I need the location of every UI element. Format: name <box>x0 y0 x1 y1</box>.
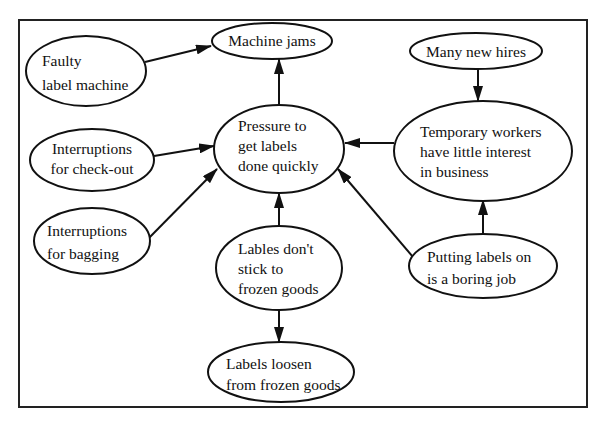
arrow-line <box>145 169 217 242</box>
node-ellipse <box>26 36 146 106</box>
node-checkout: Interruptionsfor check-out <box>30 129 154 191</box>
node-label-line: for check-out <box>50 160 134 177</box>
node-label-line: label machine <box>42 76 129 93</box>
nodes-layer: Faultylabel machineMachine jamsInterrupt… <box>26 23 572 402</box>
node-ellipse <box>409 234 557 298</box>
edge-faulty-to-jams <box>145 46 211 62</box>
node-label-line: Machine jams <box>228 32 315 49</box>
node-label-line: is a boring job <box>427 270 516 287</box>
arrow-line <box>154 146 214 156</box>
node-label-line: from frozen goods <box>226 376 341 393</box>
node-bagging: Interruptionsfor bagging <box>34 208 150 274</box>
diagram-canvas: Faultylabel machineMachine jamsInterrupt… <box>0 0 602 424</box>
node-label-line: in business <box>420 163 488 180</box>
edge-boring-to-pressure <box>338 169 413 257</box>
node-ellipse <box>34 208 150 274</box>
node-label-line: Many new hires <box>426 43 526 60</box>
node-label-line: get labels <box>238 137 297 154</box>
node-label-line: have little interest <box>420 143 532 160</box>
node-label-line: frozen goods <box>238 280 319 297</box>
node-jams: Machine jams <box>212 23 332 59</box>
edge-bagging-to-pressure <box>145 169 217 242</box>
node-temp: Temporary workershave little interestin … <box>394 101 572 201</box>
node-label-line: Lables don't <box>238 240 314 257</box>
node-label-line: Interruptions <box>52 140 132 157</box>
node-label-line: Pressure to <box>238 117 307 134</box>
node-label-line: Faulty <box>42 52 82 69</box>
node-label-line: Putting labels on <box>427 248 531 265</box>
node-faulty: Faultylabel machine <box>26 36 146 106</box>
node-hires: Many new hires <box>410 33 542 69</box>
node-label-line: Interruptions <box>47 222 127 239</box>
node-label-line: Labels loosen <box>226 355 312 372</box>
node-label-line: done quickly <box>238 157 319 174</box>
edge-checkout-to-pressure <box>154 146 214 156</box>
arrow-line <box>338 169 413 257</box>
node-label-line: stick to <box>238 260 283 277</box>
node-loosen: Labels loosenfrom frozen goods <box>208 342 354 402</box>
arrow-line <box>145 46 211 62</box>
node-stick: Lables don'tstick tofrozen goods <box>216 226 342 310</box>
node-label-line: for bagging <box>47 245 119 262</box>
node-boring: Putting labels onis a boring job <box>409 234 557 298</box>
node-label-line: Temporary workers <box>420 123 542 140</box>
node-pressure: Pressure toget labelsdone quickly <box>214 105 344 193</box>
node-ellipse <box>208 342 354 402</box>
